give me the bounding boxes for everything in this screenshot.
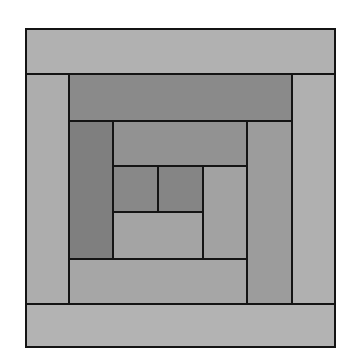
middle-left-strip bbox=[68, 120, 114, 260]
inner-top-strip bbox=[112, 120, 248, 167]
inner-right-strip bbox=[202, 165, 248, 260]
outer-left-strip bbox=[25, 73, 70, 305]
inner-bottom-strip bbox=[112, 211, 204, 260]
outer-top-strip bbox=[25, 28, 336, 75]
middle-bottom-strip bbox=[68, 258, 248, 305]
outer-right-strip bbox=[291, 73, 336, 305]
center-right-square bbox=[157, 165, 204, 213]
outer-bottom-strip bbox=[25, 303, 336, 348]
middle-right-strip bbox=[246, 120, 293, 305]
log-cabin-quilt-block bbox=[0, 0, 355, 360]
middle-top-strip bbox=[68, 73, 293, 122]
center-left-square bbox=[112, 165, 159, 213]
